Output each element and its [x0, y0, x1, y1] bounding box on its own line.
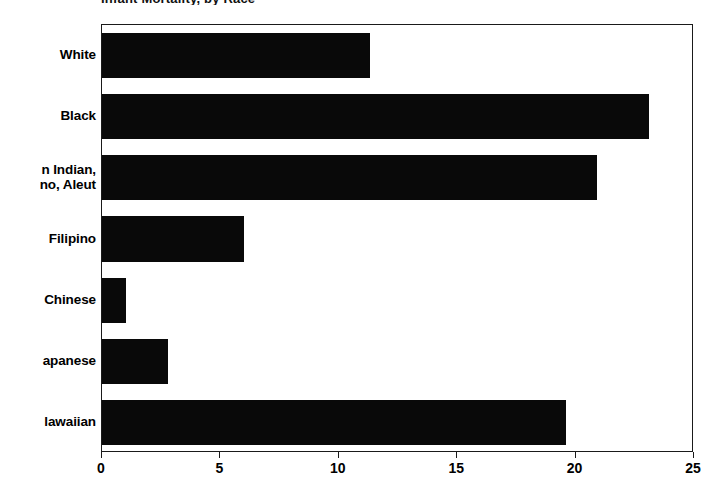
bar-row: [102, 278, 692, 323]
value-axis: 0510152025: [101, 452, 693, 492]
bar-chart: Infant Mortality, by Race WhiteBlackn In…: [0, 0, 716, 504]
x-axis-tick-label: 20: [567, 460, 583, 476]
bar: [102, 155, 597, 200]
category-label: Chinese: [44, 292, 96, 307]
x-axis-tick: [693, 452, 694, 458]
x-axis-tick-label: 5: [215, 460, 223, 476]
x-axis-tick: [575, 452, 576, 458]
x-axis-tick-label: 15: [448, 460, 464, 476]
chart-title: Infant Mortality, by Race: [101, 0, 521, 5]
category-axis-labels: WhiteBlackn Indian, no, AleutFilipinoChi…: [0, 24, 101, 452]
category-label: lawaiian: [44, 414, 96, 429]
bar: [102, 33, 370, 78]
bar: [102, 94, 649, 139]
bar-row: [102, 400, 692, 445]
category-label: n Indian, no, Aleut: [40, 162, 96, 192]
bar: [102, 339, 168, 384]
category-label: apanese: [43, 353, 96, 368]
bar-row: [102, 94, 692, 139]
plot-area: [101, 24, 693, 452]
x-axis-tick: [101, 452, 102, 458]
bar-row: [102, 339, 692, 384]
x-axis-tick: [456, 452, 457, 458]
category-label: Black: [60, 108, 96, 123]
bar: [102, 278, 126, 323]
x-axis-tick: [338, 452, 339, 458]
x-axis-tick: [219, 452, 220, 458]
bars-layer: [102, 25, 692, 451]
x-axis-tick-label: 25: [685, 460, 701, 476]
bar-row: [102, 216, 692, 261]
x-axis-tick-label: 10: [330, 460, 346, 476]
bar-row: [102, 33, 692, 78]
bar: [102, 400, 566, 445]
category-label: White: [60, 47, 96, 62]
bar-row: [102, 155, 692, 200]
category-label: Filipino: [49, 231, 96, 246]
x-axis-tick-label: 0: [97, 460, 105, 476]
bar: [102, 216, 244, 261]
